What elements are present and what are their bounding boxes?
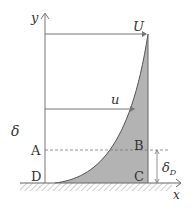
point-c-label: C [134,169,144,184]
point-a-label: A [30,143,41,158]
local-velocity-label: u [111,92,119,107]
point-d-label: D [31,169,41,184]
free-stream-label: U [133,19,145,34]
displacement-thickness-label: δD [162,160,177,177]
point-b-label: B [134,138,144,153]
y-axis-label: y [30,10,39,25]
boundary-layer-diagram: y x U u δ A B C D δD [0,0,192,214]
x-axis-label: x [173,188,180,202]
wall-hatch [20,183,172,191]
boundary-layer-thickness-label: δ [11,123,19,139]
